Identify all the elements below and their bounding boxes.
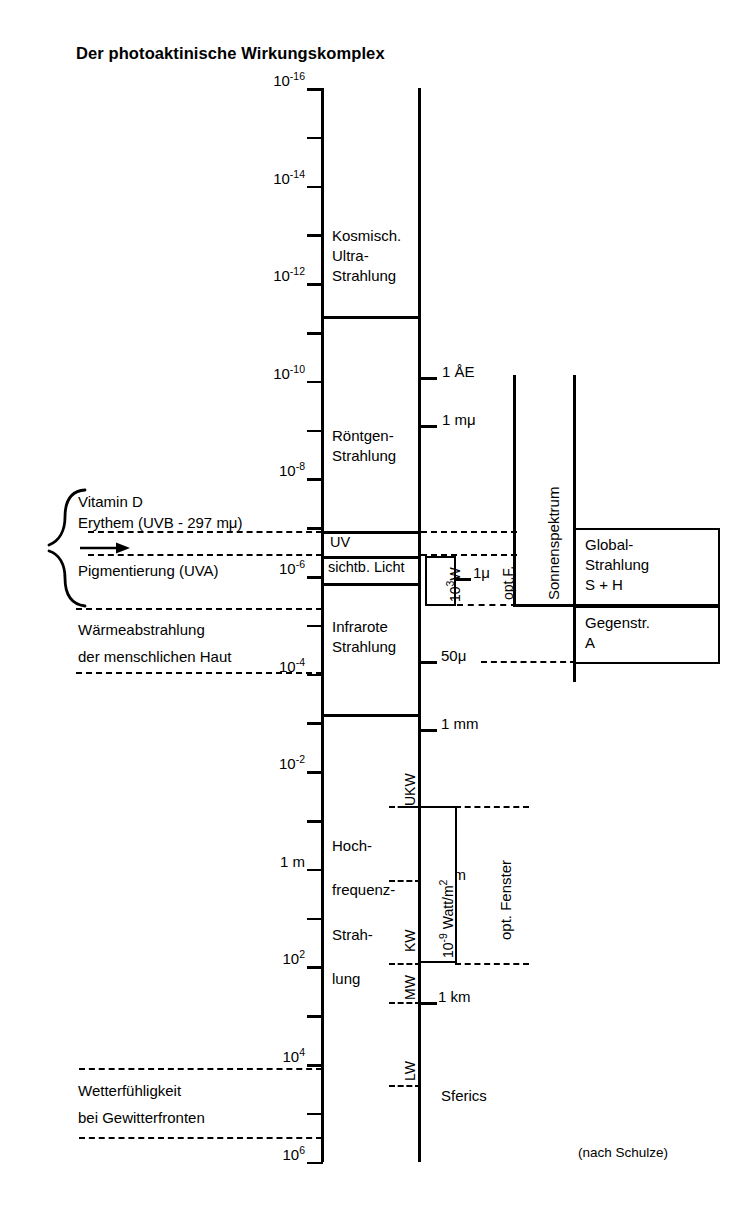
axis-tick-minor — [307, 430, 323, 433]
axis-tick-label: 10-10 — [273, 365, 305, 382]
axis-tick-label: 1 m — [280, 853, 305, 870]
axis-tick-exponent: -8 — [296, 460, 305, 472]
axis-tick-label: 102 — [282, 950, 305, 967]
axis-tick-minor — [307, 332, 323, 335]
band-divider-kosmisch-roentgen — [321, 316, 421, 319]
band-line: lung — [332, 957, 395, 1001]
band-line: Kosmisch. — [332, 226, 401, 246]
opt-f-bottom-line — [513, 604, 575, 607]
page-title: Der photoaktinische Wirkungskomplex — [76, 44, 385, 63]
axis-tick-label: 10-16 — [273, 72, 305, 89]
axis-tick-exponent: -2 — [296, 753, 305, 765]
opt-fenster-dash-top — [455, 806, 529, 808]
box-line: S + H — [585, 575, 649, 595]
band-label-uv: UV — [330, 533, 350, 552]
axis-tick-label: 106 — [282, 1146, 305, 1163]
axis-tick-label: 104 — [282, 1048, 305, 1065]
annotation-line: Wetterfühligkeit — [78, 1081, 205, 1101]
band-line: Infrarote — [332, 617, 396, 637]
radio-band-label-kw: KW — [402, 929, 418, 952]
axis-tick-base: 10 — [273, 170, 290, 187]
band-label-infrarot: Infrarote Strahlung — [332, 617, 396, 657]
axis-tick-base: 1 m — [280, 853, 305, 870]
axis-tick-base: 10 — [273, 365, 290, 382]
axis-tick-major — [307, 478, 323, 481]
right-tick-label-1ae: 1 ÅE — [442, 362, 475, 382]
sonnenspektrum-label: Sonnenspektrum — [545, 487, 562, 600]
dash-ir-right — [457, 604, 517, 606]
radio-dash-kw-top — [389, 880, 421, 882]
box-line: Strahlung — [585, 555, 649, 575]
axis-tick-minor — [307, 918, 323, 921]
dash-uv-right — [421, 531, 517, 533]
right-tick-label-50mu: 50μ — [441, 646, 466, 666]
global-strahlung-text: Global- Strahlung S + H — [585, 535, 649, 594]
axis-tick-label: 10-14 — [273, 170, 305, 187]
axis-tick-major — [307, 186, 323, 189]
band-line: Röntgen- — [332, 426, 396, 446]
annotation-erythem: Erythem (UVB - 297 mμ) — [78, 513, 243, 533]
radio-band-label-lw: LW — [402, 1061, 418, 1081]
axis-tick-minor — [307, 722, 323, 725]
band-line: Strahlung — [332, 637, 396, 657]
axis-tick-major — [307, 1064, 323, 1067]
axis-tick-minor — [307, 625, 323, 628]
dash-50mu-right — [481, 661, 576, 663]
radio-dash-lw-bottom — [389, 1085, 421, 1087]
dash-wetter-lower — [79, 1137, 322, 1139]
right-tick-1mm — [419, 729, 437, 732]
gegenstrahlung-text: Gegenstr. A — [585, 613, 650, 653]
annotation-line: bei Gewitterfronten — [78, 1108, 205, 1128]
axis-tick-major — [307, 381, 323, 384]
band-line: UV — [330, 534, 350, 550]
credit-label: (nach Schulze) — [578, 1145, 668, 1160]
axis-tick-base: 10 — [282, 950, 299, 967]
axis-tick-minor — [307, 137, 323, 140]
axis-tick-minor — [307, 234, 323, 237]
radio-dash-mw-bottom — [389, 1002, 421, 1004]
pigmentierung-arrow — [80, 535, 140, 561]
dash-waerme-upper — [76, 608, 322, 610]
annotation-waermeabstrahlung: Wärmeabstrahlung der menschlichen Haut — [78, 620, 231, 667]
axis-tick-minor — [307, 1113, 323, 1116]
axis-tick-label: 10-12 — [273, 267, 305, 284]
annotation-line: Wärmeabstrahlung — [78, 620, 231, 640]
axis-tick-major — [307, 283, 323, 286]
axis-tick-exponent: -14 — [290, 168, 305, 180]
dash-waerme-lower — [76, 672, 322, 674]
radio-dash-ukw — [389, 806, 421, 808]
sferics-label: Sferics — [441, 1086, 487, 1106]
opt-fenster-label: opt. Fenster — [497, 860, 514, 940]
axis-tick-minor — [307, 527, 323, 530]
axis-tick-major — [307, 966, 323, 969]
annotation-pigmentierung: Pigmentierung (UVA) — [78, 561, 219, 581]
power-10e3w-label: 103W — [447, 567, 463, 602]
band-label-kosmisch: Kosmisch. Ultra- Strahlung — [332, 226, 401, 285]
axis-tick-label: 10-2 — [279, 755, 305, 772]
right-tick-label-1mmu: 1 mμ — [442, 410, 476, 430]
band-line: sichtb. Licht — [328, 559, 405, 575]
box-line: Gegenstr. — [585, 613, 650, 633]
axis-tick-minor — [307, 820, 323, 823]
radio-band-label-mw: MW — [402, 975, 418, 1000]
axis-tick-base: 10 — [273, 72, 290, 89]
band-line: Strahlung — [332, 446, 396, 466]
opt-fenster-dash-bottom — [455, 963, 529, 965]
right-tick-label-1mm: 1 mm — [441, 714, 479, 734]
axis-tick-exponent: -10 — [290, 363, 305, 375]
annotation-line: der menschlichen Haut — [78, 647, 231, 667]
dash-wetter-upper — [79, 1068, 322, 1070]
axis-tick-major — [307, 576, 323, 579]
opt-f-left-line — [513, 375, 516, 607]
right-tick-1mmu — [419, 425, 437, 428]
axis-tick-major — [307, 88, 323, 91]
axis-tick-exponent: 2 — [299, 948, 305, 960]
axis-tick-major — [307, 1162, 323, 1165]
band-line: Strahlung — [332, 266, 401, 286]
band-divider-ir-hf — [321, 714, 421, 717]
annotation-vitamin-d: Vitamin D — [78, 492, 143, 512]
axis-tick-exponent: 4 — [299, 1046, 305, 1058]
radio-dash-kw-bottom — [389, 963, 421, 965]
right-tick-1km — [419, 1002, 437, 1005]
axis-tick-exponent: -4 — [296, 656, 305, 668]
